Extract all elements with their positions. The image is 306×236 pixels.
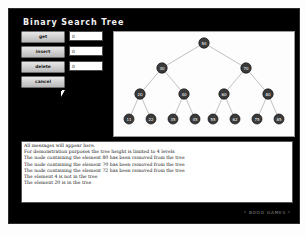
tree-edge [204, 43, 246, 68]
tree-node[interactable]: 45 [190, 114, 200, 124]
control-row-cancel: cancel [21, 76, 103, 87]
tree-node[interactable]: 35 [168, 114, 178, 124]
tree-node-label: 30 [159, 66, 165, 71]
page-title: Binary Search Tree [23, 18, 124, 27]
watermark: * BOOO GAMES * [244, 210, 291, 215]
screen: Binary Search Tree get 0 insert 0 delete… [0, 0, 306, 236]
tree-node[interactable]: 20 [135, 89, 145, 99]
tree-node[interactable]: 50 [199, 38, 209, 48]
tree-edge [162, 43, 204, 68]
tree-node-label: 70 [243, 66, 249, 71]
insert-button[interactable]: insert [21, 46, 65, 58]
tree-node[interactable]: 40 [179, 89, 189, 99]
tree-node-label: 40 [181, 92, 187, 97]
get-input[interactable]: 0 [69, 31, 103, 41]
binary-search-tree-graphic: 503070204060801122354555627585 [114, 32, 294, 136]
tree-node[interactable]: 62 [230, 114, 240, 124]
control-row-delete: delete 0 [21, 61, 103, 72]
tree-node-label: 80 [265, 92, 271, 97]
delete-button[interactable]: delete [21, 61, 65, 73]
tree-node[interactable]: 30 [157, 63, 167, 73]
tree-node-label: 60 [221, 92, 227, 97]
message-log[interactable]: All messages will appear here. For demon… [21, 141, 293, 203]
tree-canvas[interactable]: 503070204060801122354555627585 [113, 31, 295, 137]
tree-node[interactable]: 55 [208, 114, 218, 124]
application-window: Binary Search Tree get 0 insert 0 delete… [8, 8, 300, 224]
tree-node-label: 35 [170, 117, 176, 122]
tree-node[interactable]: 70 [241, 63, 251, 73]
control-panel: get 0 insert 0 delete 0 cancel [21, 31, 103, 101]
tree-node-label: 55 [210, 117, 216, 122]
delete-input[interactable]: 0 [69, 61, 103, 71]
tree-node-label: 50 [201, 41, 207, 46]
tree-node[interactable]: 80 [263, 89, 273, 99]
tree-node-label: 20 [137, 92, 143, 97]
tree-node-label: 11 [126, 117, 132, 122]
tree-node[interactable]: 11 [124, 114, 134, 124]
cancel-button[interactable]: cancel [21, 76, 65, 88]
control-row-insert: insert 0 [21, 46, 103, 57]
tree-node[interactable]: 22 [146, 114, 156, 124]
insert-input[interactable]: 0 [69, 46, 103, 56]
get-button[interactable]: get [21, 31, 65, 43]
tree-node-label: 62 [232, 117, 238, 122]
tree-node-label: 75 [254, 117, 260, 122]
tree-node[interactable]: 75 [252, 114, 262, 124]
tree-node-label: 45 [192, 117, 198, 122]
tree-node[interactable]: 85 [274, 114, 284, 124]
tree-node[interactable]: 60 [219, 89, 229, 99]
mouse-cursor-icon [61, 91, 66, 97]
tree-node-label: 22 [148, 117, 154, 122]
control-row-get: get 0 [21, 31, 103, 42]
tree-node-label: 85 [276, 117, 282, 122]
log-line: The element 20 is in the tree [24, 180, 290, 186]
